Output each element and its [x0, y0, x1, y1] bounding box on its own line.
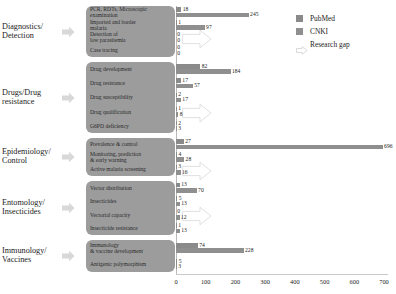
- bar-pubmed: [176, 121, 177, 126]
- bar-value-cnki: 57: [194, 83, 200, 89]
- subcategory-label: Vectorial capacity: [90, 212, 174, 218]
- bar-pubmed: [176, 107, 177, 112]
- bar-value-cnki: 70: [198, 188, 204, 194]
- subcategory-label: G6PD deficiency: [90, 123, 174, 129]
- category-label-line2: Vaccines: [2, 255, 62, 264]
- research-gap-arrow-icon: [182, 29, 212, 49]
- bar-value-cnki: 245: [250, 12, 258, 18]
- x-tick-label: 200: [231, 278, 241, 285]
- category-label: Entomology/Insecticides: [2, 198, 62, 217]
- bar-pubmed: [176, 152, 177, 157]
- category-label-line1: Diagnostics/: [2, 22, 62, 31]
- x-tick-label: 300: [260, 278, 270, 285]
- subcategory-label: Drug susceptibility: [90, 94, 174, 100]
- bar-value-cnki: 13: [181, 228, 187, 234]
- bar-cnki: [176, 98, 181, 103]
- category-connector-arrow-icon: [62, 26, 75, 38]
- bar-value-cnki: 16: [182, 170, 188, 176]
- bar-pubmed: [176, 7, 181, 12]
- subcategory-label: Detection oflow parasitemia: [90, 31, 174, 43]
- subcategory-label: Insecticide resistance: [90, 225, 174, 231]
- bar-value-cnki: 0: [177, 51, 180, 57]
- category-label-line2: Control: [2, 156, 62, 165]
- subcategory-label: Drug development: [90, 66, 174, 72]
- bar-pubmed: [176, 243, 198, 248]
- subcategory-label: Monitoring, prediction& early warning: [90, 151, 174, 163]
- subcategory-label-line2: & early warning: [90, 157, 174, 163]
- bar-value-cnki: 8: [180, 112, 183, 118]
- legend-label-pubmed: PubMed: [310, 14, 335, 23]
- subcategory-label: Prevalence & control: [90, 141, 174, 147]
- x-tick-label: 500: [320, 278, 330, 285]
- bar-value-cnki: 184: [232, 69, 240, 75]
- category-label-line1: Entomology/: [2, 198, 62, 207]
- x-tick-label: 700: [379, 278, 389, 285]
- x-tick-label: 100: [201, 278, 211, 285]
- chart-legend: PubMed CNKI Research gap: [296, 12, 350, 51]
- category-label-line1: Drugs/Drug: [2, 88, 62, 97]
- legend-label-research-gap: Research gap: [310, 40, 350, 49]
- x-tick-label: 400: [290, 278, 300, 285]
- bar-pubmed: [176, 223, 177, 228]
- bar-cnki: [176, 264, 177, 269]
- bar-pubmed: [176, 64, 200, 69]
- subcategory-label: Vector distribution: [90, 185, 174, 191]
- bar-value-cnki: 12: [181, 215, 187, 221]
- legend-item-cnki: CNKI: [296, 25, 350, 38]
- research-gap-bar-chart: Diagnostics/DetectionPCR, RDTs, Microsco…: [0, 0, 396, 294]
- bar-value-cnki: 3: [178, 264, 181, 270]
- bar-pubmed: [176, 93, 177, 98]
- bar-value-cnki: 696: [384, 144, 392, 150]
- bar-value-cnki: 228: [245, 248, 253, 254]
- bar-cnki: [176, 170, 181, 175]
- subcategory-label-line2: malaria: [90, 25, 174, 31]
- subcategory-label-line2: examination: [90, 12, 174, 18]
- category-label-line2: resistance: [2, 97, 62, 106]
- legend-label-cnki: CNKI: [310, 27, 328, 36]
- bar-pubmed: [176, 20, 177, 25]
- category-label: Immunology/Vaccines: [2, 246, 62, 265]
- bar-cnki: [176, 248, 244, 253]
- bar-pubmed: [176, 78, 181, 83]
- subcategory-label: Active malaria screening: [90, 166, 174, 172]
- x-axis-line: [176, 274, 388, 275]
- bar-pubmed: [176, 165, 177, 170]
- bar-cnki: [176, 126, 177, 131]
- category-label-line1: Epidemiology/: [2, 147, 62, 156]
- subcategory-label: Drug qualification: [90, 109, 174, 115]
- category-connector-arrow-icon: [62, 151, 75, 163]
- bar-value-cnki: 3: [178, 126, 181, 132]
- category-connector-arrow-icon: [62, 202, 75, 214]
- bar-cnki: [176, 84, 193, 89]
- subcategory-label: Case tracing: [90, 47, 174, 53]
- subcategory-label-line2: & vaccine development: [90, 248, 174, 254]
- research-gap-arrow-icon: [182, 103, 212, 123]
- bar-cnki: [176, 229, 180, 234]
- research-gap-arrow-icon: [182, 206, 212, 226]
- bar-cnki: [176, 13, 249, 18]
- bar-pubmed: [176, 139, 184, 144]
- category-label-line2: Insecticides: [2, 207, 62, 216]
- bar-cnki: [176, 215, 180, 220]
- category-label: Diagnostics/Detection: [2, 22, 62, 41]
- bar-pubmed: [176, 196, 177, 201]
- category-label: Drugs/Drugresistance: [2, 88, 62, 107]
- x-tick-label: 600: [349, 278, 359, 285]
- research-gap-arrow-icon: [296, 41, 303, 48]
- category-label-line2: Detection: [2, 31, 62, 40]
- bar-pubmed: [176, 183, 180, 188]
- subcategory-label: Imported and bordermalaria: [90, 19, 174, 31]
- subcategory-label: Insecticides: [90, 198, 174, 204]
- subcategory-label: PCR, RDTs, Microscopicexamination: [90, 6, 174, 18]
- subcategory-label: Immunology& vaccine development: [90, 242, 174, 254]
- bar-cnki: [176, 112, 178, 117]
- cnki-swatch-icon: [296, 28, 303, 35]
- category-label-line1: Immunology/: [2, 246, 62, 255]
- pubmed-swatch-icon: [296, 15, 303, 22]
- category-label: Epidemiology/Control: [2, 147, 62, 166]
- bar-value-cnki: 0: [177, 38, 180, 44]
- legend-item-pubmed: PubMed: [296, 12, 350, 25]
- subcategory-label: Antigenic polymorphism: [90, 261, 174, 267]
- x-tick-label: 0: [174, 278, 177, 285]
- bar-cnki: [176, 188, 197, 193]
